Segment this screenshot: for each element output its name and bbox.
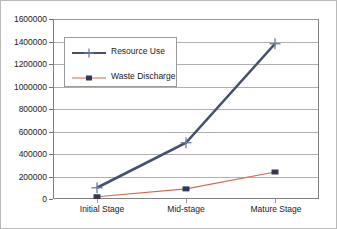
y-axis-tick-mark — [49, 199, 53, 200]
gridline — [54, 109, 318, 110]
y-axis-tick-label: 1000000 — [0, 83, 47, 92]
legend-item-waste-discharge: Waste Discharge — [65, 63, 176, 88]
y-axis-tick-label: 800000 — [0, 105, 47, 114]
y-axis-tick-label: 1400000 — [0, 38, 47, 47]
gridline — [54, 154, 318, 155]
y-axis-tick-label: 1600000 — [0, 15, 47, 24]
legend-item-resource-use: Resource Use — [65, 38, 176, 63]
y-axis-tick-label: 400000 — [0, 150, 47, 159]
legend-swatch-waste-discharge — [71, 70, 107, 82]
legend-swatch-resource-use — [71, 45, 107, 57]
x-axis-tick-label: Initial Stage — [59, 204, 145, 214]
x-axis-tick-mark — [275, 199, 276, 203]
x-axis-tick-label: Mid-stage — [143, 204, 229, 214]
chart-legend: Resource Use Waste Discharge — [64, 37, 177, 87]
legend-line-icon — [71, 47, 107, 59]
x-axis-tick-label: Mature Stage — [231, 204, 321, 214]
y-axis-tick-label: 200000 — [0, 173, 47, 182]
y-axis-tick-label: 0 — [0, 195, 47, 204]
gridline — [54, 177, 318, 178]
x-axis-tick-mark — [186, 199, 187, 203]
y-axis-tick-label: 1200000 — [0, 60, 47, 69]
legend-label-resource-use: Resource Use — [111, 46, 165, 56]
gridline — [54, 132, 318, 133]
legend-line-icon — [71, 72, 107, 84]
chart-figure: 1600000 1400000 1200000 1000000 800000 6… — [0, 0, 337, 229]
legend-label-waste-discharge: Waste Discharge — [111, 71, 175, 81]
y-axis-tick-label: 600000 — [0, 128, 47, 137]
x-axis-tick-mark — [97, 199, 98, 203]
